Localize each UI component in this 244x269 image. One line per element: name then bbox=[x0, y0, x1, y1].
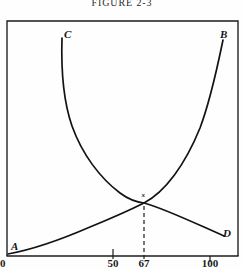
axis-label-67: 67 bbox=[139, 257, 151, 269]
figure-container: FIGURE 2-3 x A B C D 0 50 67 100 bbox=[0, 0, 244, 269]
intersection-point-label: x bbox=[141, 191, 146, 199]
curve-cd bbox=[62, 38, 224, 236]
axis-label-0: 0 bbox=[0, 257, 6, 269]
curve-label-d: D bbox=[222, 227, 231, 239]
plot-frame bbox=[7, 21, 238, 256]
chart-plot-area: x A B C D 0 50 67 100 bbox=[0, 0, 244, 269]
curve-label-a: A bbox=[10, 240, 18, 252]
axis-label-100: 100 bbox=[202, 257, 219, 269]
curve-label-b: B bbox=[219, 28, 227, 40]
axis-label-50: 50 bbox=[108, 257, 120, 269]
curve-label-c: C bbox=[64, 28, 72, 40]
